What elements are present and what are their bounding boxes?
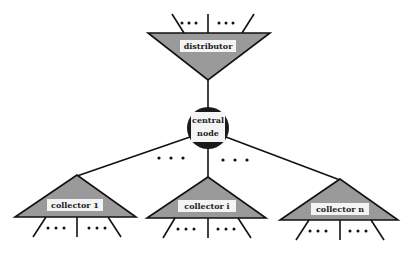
central-node: central node <box>187 107 229 149</box>
collector-n-label: collector n <box>316 204 364 214</box>
distributor-label: distributor <box>184 41 234 51</box>
collector-1-label: collector 1 <box>51 200 99 210</box>
collector-i: collector i <box>147 177 266 238</box>
central-node-label-1: central <box>192 115 224 125</box>
tree-diagram: distributor central node collector 1 <box>0 0 410 254</box>
collector-n: collector n <box>280 179 398 240</box>
distributor-inputs <box>172 14 254 33</box>
distributor: distributor <box>148 33 270 80</box>
collector-i-label: collector i <box>184 201 229 211</box>
collector-1: collector 1 <box>15 175 136 237</box>
middle-ellipsis <box>157 156 248 161</box>
central-node-label-2: node <box>197 128 219 138</box>
